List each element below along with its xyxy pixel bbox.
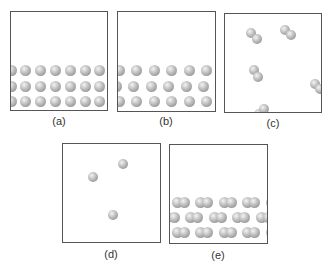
atom <box>259 104 269 113</box>
atom <box>50 96 61 107</box>
atom <box>94 96 105 107</box>
atom <box>20 81 31 92</box>
atom <box>163 81 174 92</box>
atom <box>88 172 98 182</box>
atom <box>65 81 76 92</box>
atom <box>149 65 160 76</box>
atom <box>315 84 322 94</box>
atom <box>166 96 177 107</box>
atom <box>184 65 195 76</box>
atom <box>94 65 105 76</box>
atom <box>146 81 157 92</box>
panel-e-box <box>169 144 268 244</box>
atom <box>128 81 139 92</box>
atom <box>201 65 212 76</box>
atom <box>10 96 17 107</box>
atom <box>179 197 190 208</box>
atom <box>226 227 237 238</box>
atom <box>249 197 260 208</box>
atom <box>10 65 17 76</box>
atom <box>266 227 269 238</box>
atom <box>65 65 76 76</box>
atom <box>202 227 213 238</box>
atom <box>253 72 263 82</box>
atom <box>131 96 142 107</box>
atom <box>169 212 180 223</box>
panel-d-label: (d) <box>91 248 131 260</box>
atom <box>118 159 128 169</box>
atom <box>201 96 212 107</box>
atom <box>20 96 31 107</box>
atom <box>184 96 195 107</box>
atom <box>181 81 192 92</box>
atom <box>216 212 227 223</box>
atom <box>94 81 105 92</box>
atom <box>226 197 237 208</box>
panel-c-box <box>224 13 322 113</box>
atom <box>263 212 269 223</box>
atom <box>108 210 118 220</box>
atom <box>179 227 190 238</box>
atom <box>198 81 209 92</box>
atom <box>286 30 296 40</box>
atom <box>166 65 177 76</box>
atom <box>80 96 91 107</box>
panel-b-label: (b) <box>146 115 186 127</box>
atom <box>50 81 61 92</box>
atom <box>252 34 262 44</box>
atom <box>117 65 125 76</box>
atom <box>202 197 213 208</box>
atom <box>35 96 46 107</box>
panel-a-label: (a) <box>39 115 79 127</box>
atom <box>35 65 46 76</box>
atom <box>20 65 31 76</box>
panel-d-box <box>62 143 161 243</box>
atom <box>249 227 260 238</box>
atom <box>65 96 76 107</box>
atom <box>266 197 269 208</box>
atom <box>117 81 122 92</box>
atom <box>131 65 142 76</box>
atom <box>10 81 17 92</box>
atom <box>117 96 125 107</box>
panel-e-label: (e) <box>198 249 238 261</box>
atom <box>50 65 61 76</box>
atom <box>35 81 46 92</box>
atom <box>80 81 91 92</box>
panel-c-label: (c) <box>253 117 293 129</box>
panel-a-box <box>10 11 108 111</box>
atom <box>80 65 91 76</box>
atom <box>216 81 217 92</box>
atom <box>149 96 160 107</box>
atom <box>239 212 250 223</box>
panel-b-box <box>117 11 216 112</box>
atom <box>192 212 203 223</box>
